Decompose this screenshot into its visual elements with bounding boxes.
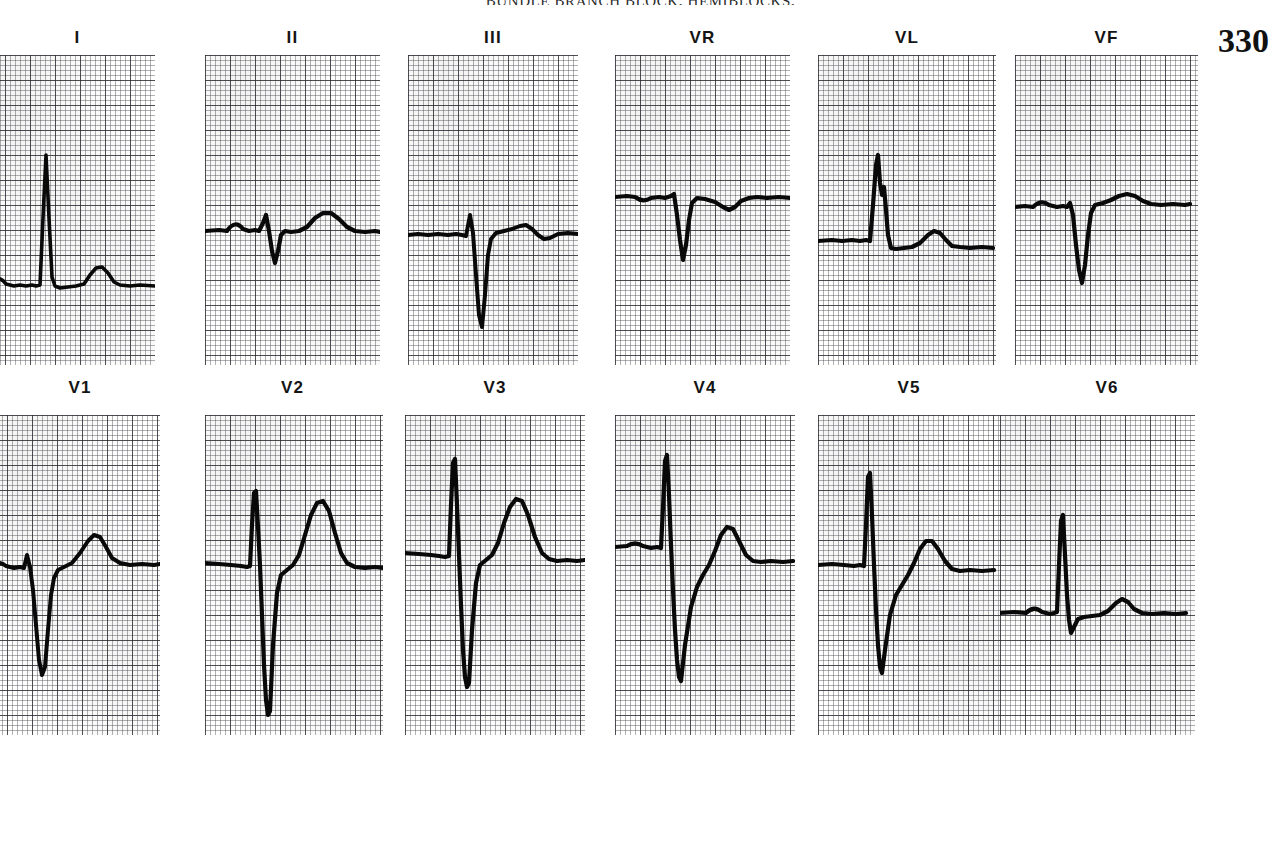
ecg-panel-v4 bbox=[615, 415, 795, 735]
ecg-panel-v3 bbox=[405, 415, 585, 735]
ecg-panel-v6 bbox=[1000, 415, 1195, 735]
ecg-panel-ii bbox=[205, 55, 380, 365]
lead-label-iii: III bbox=[408, 28, 578, 48]
ecg-panel-i bbox=[0, 55, 155, 365]
ecg-panel-v1 bbox=[0, 415, 160, 735]
lead-label-v3: V3 bbox=[405, 378, 585, 398]
ecg-panel-vr bbox=[615, 55, 790, 365]
running-head: BUNDLE BRANCH BLOCK, HEMIBLOCKS, bbox=[0, 0, 1281, 5]
ecg-trace-ii bbox=[205, 213, 380, 263]
lead-label-vr: VR bbox=[615, 28, 790, 48]
lead-label-v4: V4 bbox=[615, 378, 795, 398]
lead-label-v6: V6 bbox=[1012, 378, 1202, 398]
ecg-trace-i bbox=[0, 155, 155, 288]
ecg-trace-v4 bbox=[615, 455, 793, 681]
ecg-panel-vl bbox=[818, 55, 996, 365]
ecg-panel-vf bbox=[1015, 55, 1198, 365]
ecg-trace-vl bbox=[818, 155, 993, 249]
lead-label-v1: V1 bbox=[0, 378, 160, 398]
ecg-trace-vf bbox=[1015, 194, 1190, 283]
ecg-trace-iii bbox=[408, 215, 578, 327]
ecg-trace-v1 bbox=[0, 535, 160, 675]
ecg-panel-iii bbox=[408, 55, 578, 365]
ecg-panel-v2 bbox=[205, 415, 383, 735]
lead-label-v2: V2 bbox=[205, 378, 380, 398]
ecg-row-limb-leads bbox=[0, 55, 1281, 365]
lead-label-vf: VF bbox=[1015, 28, 1198, 48]
lead-label-vl: VL bbox=[818, 28, 996, 48]
ecg-panel-v5 bbox=[818, 415, 1000, 735]
lead-label-ii: II bbox=[205, 28, 380, 48]
lead-label-i: I bbox=[0, 28, 155, 48]
ecg-trace-v5 bbox=[818, 473, 994, 673]
ecg-row-chest-leads bbox=[0, 415, 1281, 735]
ecg-trace-v3 bbox=[405, 459, 585, 687]
ecg-trace-v6 bbox=[1000, 515, 1186, 633]
ecg-trace-v2 bbox=[205, 491, 383, 715]
lead-label-v5: V5 bbox=[818, 378, 1000, 398]
ecg-trace-vr bbox=[615, 194, 790, 260]
